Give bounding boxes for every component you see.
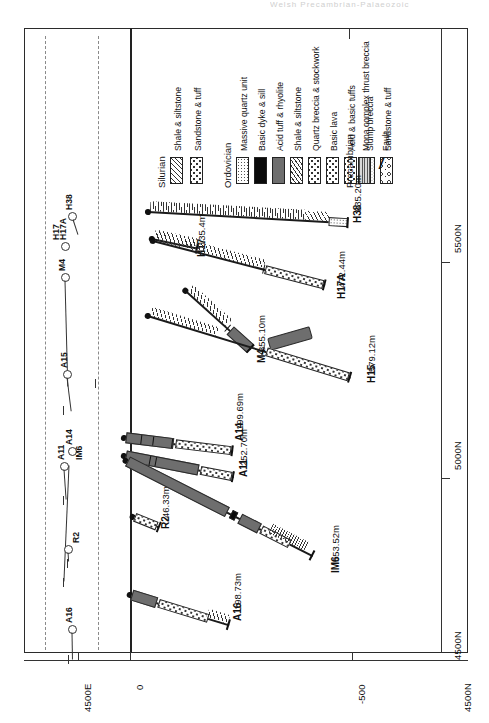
plan-hole-label: A11 — [56, 445, 66, 460]
borehole-label-A16: 198.73m A16 — [232, 610, 269, 632]
legend-item: Acid tuff & rhyolite — [272, 157, 285, 184]
borehole-label-H38: 635.20m H38 — [352, 212, 389, 234]
legend-item: Basic dyke & sill — [254, 157, 267, 184]
borehole-name: IM6 — [330, 536, 341, 573]
plan-hole-end-bar — [67, 559, 68, 568]
legend-swatch-shale-siltstone-ordovician — [290, 157, 303, 184]
legend-item: / Fault — [378, 157, 391, 184]
legend-item: Shale & siltstone — [170, 157, 183, 184]
legend-label: Quartz breccia & stockwork — [311, 46, 321, 151]
northing-label-4500N-inner: 4500N — [452, 631, 463, 660]
legend-swatch-shale-siltstone-silurian — [170, 157, 183, 184]
borehole-name: A16 — [232, 584, 243, 621]
legend-label: Shale & siltstone — [173, 87, 183, 151]
plan-hole-label: A15 — [59, 352, 69, 368]
axis-tick-minus500 — [352, 652, 353, 661]
legend-item: Basic lava — [326, 157, 339, 184]
borehole-label-IM6: 553.52m IM6 — [330, 562, 367, 584]
borehole-name: A11 — [238, 440, 249, 477]
legend-label: Basic dyke & sill — [257, 89, 267, 151]
plan-hole-trace — [73, 219, 79, 235]
axis-tick-0 — [130, 652, 131, 661]
plan-hole-label: R2 — [71, 532, 81, 543]
legend-item: Sandstone & tuff — [190, 157, 203, 184]
legend-swatch-massive-quartz-unit — [236, 157, 249, 184]
plan-hole-label: A16 — [64, 607, 74, 623]
plan-hole-label: IM6 — [74, 446, 84, 460]
legend-label: Mona complex thrust breccia — [361, 41, 371, 151]
plan-hole-label: M4 — [57, 259, 67, 271]
legend-label: Basic lava — [329, 112, 339, 151]
plan-hole-label: H17 — [51, 224, 61, 240]
legend-swatch-basic-lava — [326, 157, 339, 184]
borehole-name: H38 — [352, 186, 363, 223]
section-datum-line — [130, 28, 132, 653]
plan-hole-end-bar — [63, 406, 64, 415]
borehole-name: H15 — [366, 346, 377, 383]
truncated-title: Welsh Precambrian-Palaeozoic — [270, 0, 489, 9]
northing-label-5500N: 5500N — [452, 224, 463, 253]
borehole-name: R2 — [160, 497, 171, 529]
borehole-label-R2: 46.33m R2 — [160, 518, 192, 540]
legend-swatch-acid-tuff-rhyolite — [272, 157, 285, 184]
axis-label-0: 0 — [134, 685, 145, 690]
axis-tick-4500E — [78, 652, 79, 661]
legend-swatch-quartz-breccia-stockwork — [308, 157, 321, 184]
legend-label: Sandstone & tuff — [193, 88, 203, 151]
legend-label: Shale & siltstone — [293, 87, 303, 151]
legend-label: Fault — [381, 132, 391, 151]
plan-hole-end-bar — [95, 379, 96, 388]
plan-collar-circle — [61, 242, 70, 251]
lithology-band-hatch — [305, 211, 329, 221]
legend-swatch-basic-dyke-sill — [254, 157, 267, 184]
plan-hole-trace — [67, 377, 72, 411]
axis-line — [24, 660, 468, 661]
northing-tick-5500N — [441, 262, 450, 263]
legend-group-title: Silurian — [156, 156, 167, 188]
plan-hole-trace — [64, 469, 67, 499]
axis-label-4500N: 4500N — [462, 683, 473, 712]
borehole-name: M4 — [256, 326, 267, 363]
legend: Silurian Shale & siltstone Sandstone & t… — [150, 30, 450, 190]
borehole-label-A11: 252.70m A11 — [238, 466, 275, 488]
plan-view-inset: H38 H17A H17 M4 A15 A14 A11 IM6 — [30, 30, 126, 650]
plan-hole-end-bar — [63, 578, 64, 587]
legend-item: Massive quartz unit — [236, 157, 249, 184]
northing-tick-5000N — [441, 478, 450, 479]
legend-label: Massive quartz unit — [239, 77, 249, 151]
plan-hole-label: H38 — [64, 194, 74, 210]
plan-hole-label: A14 — [64, 429, 74, 445]
northing-label-5000N: 5000N — [452, 441, 463, 470]
legend-swatch-fault-icon: / — [378, 157, 391, 184]
axis-label-4500E: 4500E — [82, 684, 93, 712]
borehole-label-H17A: 472.44m H17A — [336, 288, 373, 310]
borehole-name: H17A — [336, 262, 347, 299]
plan-hole-end-bar — [63, 496, 64, 505]
legend-group-title: Ordovician — [222, 143, 233, 188]
plan-hole-end-bar — [68, 655, 69, 664]
axis-label-minus-500: -500 — [356, 684, 367, 704]
legend-label: Acid tuff & rhyolite — [275, 82, 285, 151]
plan-hole-trace — [72, 632, 73, 659]
legend-swatch-sandstone-tuff-silurian — [190, 157, 203, 184]
legend-item: Quartz breccia & stockwork — [308, 157, 321, 184]
legend-item: Shale & siltstone — [290, 157, 303, 184]
borehole-label-H15: 579.12m H15 — [366, 372, 403, 394]
lithology-band-dots — [328, 217, 347, 227]
